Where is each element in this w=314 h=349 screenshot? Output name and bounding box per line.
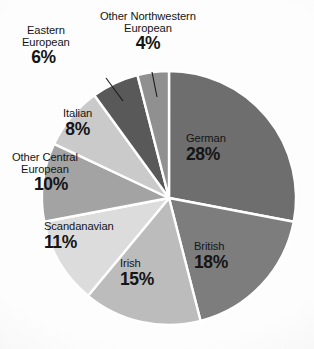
slice-percent-other-central-european: 10%: [12, 175, 78, 193]
slice-name-other-northwestern-european: Other Northwestern European: [100, 11, 196, 34]
slice-name-german: German: [186, 133, 226, 145]
slice-label-italian: Italian 8%: [63, 108, 92, 138]
slice-label-irish: Irish 15%: [120, 258, 154, 288]
slice-percent-irish: 15%: [120, 270, 154, 288]
slice-percent-other-northwestern-european: 4%: [100, 34, 196, 52]
slice-name-irish: Irish: [120, 258, 154, 270]
slice-name-eastern-european: Eastern European: [22, 25, 70, 48]
slice-label-other-central-european: Other Central European 10%: [12, 152, 78, 193]
slice-percent-scandanavian: 11%: [44, 233, 114, 251]
pie-chart: German 28% British 18% Irish 15% Scandan…: [0, 0, 314, 349]
slice-label-german: German 28%: [186, 133, 226, 163]
slice-percent-german: 28%: [186, 145, 226, 163]
slice-name-line1: Eastern: [27, 24, 65, 36]
slice-name-other-central-european: Other Central European: [12, 152, 78, 175]
slice-name-british: British: [194, 241, 228, 253]
slice-percent-eastern-european: 6%: [22, 48, 70, 66]
slice-name-scandanavian: Scandanavian: [44, 221, 114, 233]
slice-name-line1: Other Northwestern: [100, 10, 196, 22]
slice-name-line1: Other Central: [12, 151, 78, 163]
slice-percent-italian: 8%: [63, 120, 92, 138]
slice-percent-british: 18%: [194, 253, 228, 271]
slice-label-eastern-european: Eastern European 6%: [22, 25, 70, 66]
slice-name-italian: Italian: [63, 108, 92, 120]
slice-label-other-northwestern-european: Other Northwestern European 4%: [100, 11, 196, 52]
slice-label-british: British 18%: [194, 241, 228, 271]
slice-label-scandanavian: Scandanavian 11%: [44, 221, 114, 251]
